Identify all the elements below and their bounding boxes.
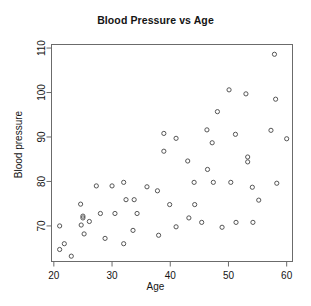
data-point	[110, 184, 114, 188]
data-point	[215, 110, 219, 114]
data-point	[103, 236, 107, 240]
y-tick-label: 110	[36, 40, 47, 56]
data-point-series	[58, 52, 289, 258]
data-point	[205, 167, 209, 171]
plot-canvas: 2030405060 708090100110	[0, 0, 311, 306]
data-point	[234, 220, 238, 224]
data-point	[62, 242, 66, 246]
plot-frame	[52, 45, 293, 262]
data-point	[113, 211, 117, 215]
data-point	[162, 149, 166, 153]
data-point	[269, 128, 273, 132]
x-tick-label: 30	[106, 270, 118, 281]
data-point	[250, 185, 254, 189]
x-tick-label: 60	[281, 270, 293, 281]
data-point	[58, 247, 62, 251]
y-axis-ticks	[47, 48, 52, 226]
data-point	[82, 232, 86, 236]
scatter-plot-figure: Blood Pressure vs Age 2030405060 7080901…	[0, 0, 311, 306]
x-tick-label: 40	[165, 270, 177, 281]
data-point	[122, 242, 126, 246]
data-point	[275, 181, 279, 185]
data-point	[174, 136, 178, 140]
data-point	[192, 180, 196, 184]
data-point	[162, 131, 166, 135]
data-point	[94, 184, 98, 188]
data-point	[58, 224, 62, 228]
data-point	[145, 185, 149, 189]
data-point	[229, 180, 233, 184]
data-point	[220, 225, 224, 229]
data-point	[233, 132, 237, 136]
data-point	[285, 137, 289, 141]
data-point	[193, 202, 197, 206]
data-point	[257, 198, 261, 202]
data-point	[274, 97, 278, 101]
data-point	[157, 233, 161, 237]
y-tick-label: 90	[36, 131, 47, 143]
data-point	[132, 198, 136, 202]
data-point	[227, 88, 231, 92]
data-point	[186, 159, 190, 163]
data-point	[131, 228, 135, 232]
data-point	[69, 254, 73, 258]
x-tick-label: 20	[48, 270, 60, 281]
y-tick-label: 70	[36, 220, 47, 232]
data-point	[205, 128, 209, 132]
data-point	[79, 202, 83, 206]
x-tick-label: 50	[223, 270, 235, 281]
x-axis-tick-labels: 2030405060	[48, 270, 292, 281]
data-point	[98, 211, 102, 215]
data-point	[122, 180, 126, 184]
data-point	[155, 189, 159, 193]
data-point	[168, 202, 172, 206]
data-point	[210, 141, 214, 145]
data-point	[251, 220, 255, 224]
data-point	[79, 223, 83, 227]
x-axis-ticks	[54, 262, 287, 267]
data-point	[174, 225, 178, 229]
data-point	[246, 155, 250, 159]
data-point	[135, 211, 139, 215]
y-tick-label: 100	[36, 84, 47, 101]
y-tick-label: 80	[36, 175, 47, 187]
y-axis-tick-labels: 708090100110	[36, 40, 47, 232]
data-point	[200, 220, 204, 224]
data-point	[244, 92, 248, 96]
data-point	[272, 52, 276, 56]
data-point	[124, 198, 128, 202]
y-axis-label: Blood pressure	[13, 75, 24, 215]
data-point	[187, 216, 191, 220]
data-point	[246, 160, 250, 164]
data-point	[211, 180, 215, 184]
data-point	[87, 219, 91, 223]
x-axis-label: Age	[0, 281, 311, 292]
